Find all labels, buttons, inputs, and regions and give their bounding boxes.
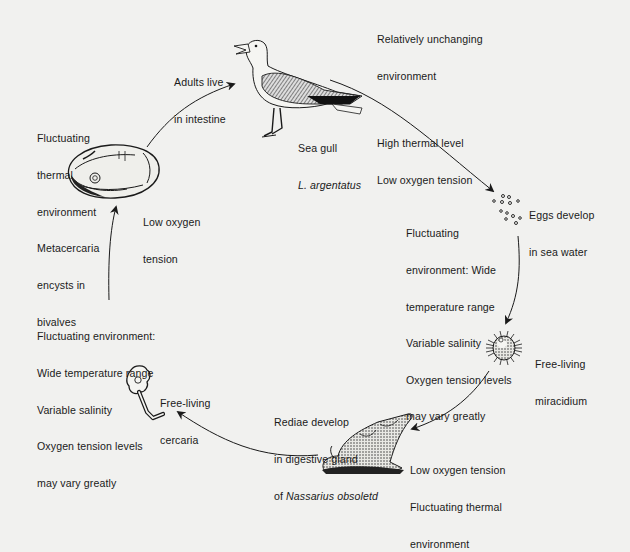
adult-environment-note: Relatively unchanging environment High t… [377, 9, 483, 210]
host-common-name: Sea gull [298, 142, 361, 154]
label-line: Free-living [160, 397, 211, 409]
label-line: Metacercaria [37, 242, 99, 254]
label-prefix: of [274, 490, 286, 502]
env-line: Low oxygen [143, 216, 201, 228]
label-line: Rediae develop [274, 416, 378, 428]
label-line: Free-living [535, 358, 587, 370]
rediae-stage-label: Rediae develop in digestive gland of Nas… [274, 392, 378, 526]
env-line: may vary greatly [406, 410, 512, 422]
env-line: environment [410, 538, 505, 550]
env-line: Variable salinity [406, 337, 512, 349]
env-line: Oxygen tension levels [37, 440, 155, 452]
miracidium-stage-label: Free-living miracidium [535, 334, 587, 432]
env-line: Fluctuating [37, 132, 96, 144]
env-line: Wide temperature range [37, 367, 155, 379]
label-line: in sea water [529, 246, 594, 258]
env-line: environment [37, 206, 96, 218]
eggs-environment-note: Fluctuating environment: Wide temperatur… [406, 203, 512, 447]
env-line: environment: Wide [406, 264, 512, 276]
bivalve-oxygen-note: Low oxygen tension [143, 192, 201, 290]
snail-scientific-name: Nassarius obsoletd [286, 490, 378, 502]
adult-stage-label: Adults live in intestine [174, 52, 226, 150]
env-line: thermal [37, 169, 96, 181]
env-line: Relatively unchanging [377, 33, 483, 45]
label-line: miracidium [535, 395, 587, 407]
env-line: Low oxygen tension [377, 174, 483, 186]
label-line: bivalves [37, 316, 99, 328]
arrow-cercaria-to-bivalve [109, 207, 116, 300]
eggs-stage-label: Eggs develop in sea water [529, 185, 594, 283]
env-line: Low oxygen tension [410, 464, 505, 476]
env-line: Oxygen tension levels [406, 374, 512, 386]
label-line: of Nassarius obsoletd [274, 490, 378, 502]
label-line: cercaria [160, 434, 211, 446]
bivalve-environment-note: Fluctuating thermal environment [37, 108, 96, 242]
env-line: tension [143, 253, 201, 265]
cercaria-stage-label: Free-living cercaria [160, 373, 211, 471]
env-line: Fluctuating thermal [410, 501, 505, 513]
env-line: Variable salinity [37, 404, 155, 416]
host-scientific-name: L. argentatus [298, 179, 361, 191]
label-line: in digestive gland [274, 453, 378, 465]
env-line: temperature range [406, 301, 512, 313]
rediae-environment-note: Low oxygen tension Fluctuating thermal e… [410, 440, 505, 552]
env-line: High thermal level [377, 137, 483, 149]
env-line: Fluctuating [406, 227, 512, 239]
label-line: Adults live [174, 76, 226, 88]
label-line: in intestine [174, 113, 226, 125]
gull-host-label: Sea gull L. argentatus [298, 118, 361, 216]
label-line: Eggs develop [529, 209, 594, 221]
label-line: encysts in [37, 279, 99, 291]
env-line: may vary greatly [37, 477, 155, 489]
env-line: environment [377, 70, 483, 82]
